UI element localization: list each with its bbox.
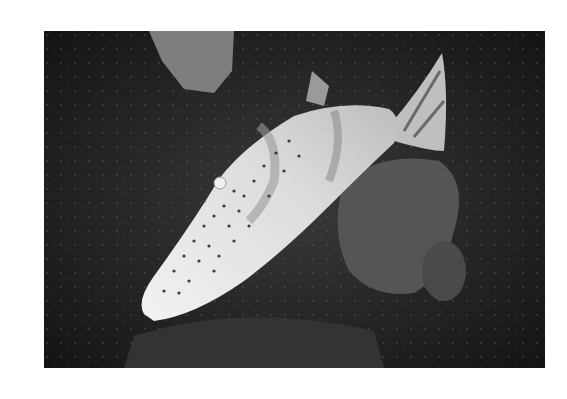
fish-photo — [44, 31, 545, 368]
fish-eye — [214, 177, 226, 189]
photo-canvas — [44, 31, 545, 368]
